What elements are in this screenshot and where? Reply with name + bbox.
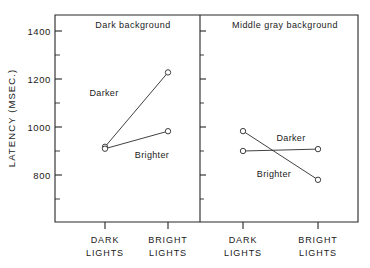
right-panel-series-darker bbox=[240, 146, 320, 153]
category-label-line2: LIGHTS bbox=[149, 248, 187, 258]
y-tick-label-1200: 1200 bbox=[27, 74, 51, 85]
data-point-marker bbox=[240, 128, 245, 133]
series-label-brighter-right: Brighter bbox=[257, 169, 291, 179]
category-label-line1: DARK bbox=[229, 235, 258, 245]
data-point-marker bbox=[102, 146, 107, 151]
figure-container: 1400 1200 1000 800 LATENCY (MSEC.) Dark … bbox=[0, 0, 370, 268]
panel-title-left: Dark background bbox=[95, 20, 170, 30]
x-axis-category-ticks bbox=[105, 222, 318, 229]
category-label-line1: DARK bbox=[91, 235, 120, 245]
y-axis-title: LATENCY (MSEC.) bbox=[6, 69, 17, 168]
plot-frame bbox=[55, 15, 358, 222]
latency-line-chart: 1400 1200 1000 800 LATENCY (MSEC.) Dark … bbox=[0, 0, 370, 268]
category-label-line1: BRIGHT bbox=[298, 235, 337, 245]
data-point-marker bbox=[240, 148, 245, 153]
category-label-right-bright: BRIGHT LIGHTS bbox=[298, 235, 337, 258]
left-panel-series-darker bbox=[102, 70, 170, 150]
category-label-line2: LIGHTS bbox=[86, 248, 124, 258]
category-label-line2: LIGHTS bbox=[224, 248, 262, 258]
series-label-darker-right: Darker bbox=[276, 133, 305, 143]
series-label-darker-left: Darker bbox=[89, 88, 118, 98]
y-tick-label-1400: 1400 bbox=[27, 26, 51, 37]
data-point-marker bbox=[315, 146, 320, 151]
y-tick-label-800: 800 bbox=[33, 170, 51, 181]
series-label-brighter-left: Brighter bbox=[135, 150, 169, 160]
panel-title-right: Middle gray background bbox=[232, 20, 338, 30]
left-panel-series-brighter bbox=[102, 129, 170, 152]
divider-axis-ticks bbox=[200, 31, 206, 199]
y-tick-label-1000: 1000 bbox=[27, 122, 51, 133]
category-label-left-bright: BRIGHT LIGHTS bbox=[148, 235, 187, 258]
category-label-line1: BRIGHT bbox=[148, 235, 187, 245]
category-label-line2: LIGHTS bbox=[299, 248, 337, 258]
data-point-marker bbox=[315, 177, 320, 182]
data-point-marker bbox=[165, 70, 170, 75]
category-label-right-dark: DARK LIGHTS bbox=[224, 235, 262, 258]
category-label-left-dark: DARK LIGHTS bbox=[86, 235, 124, 258]
data-point-marker bbox=[165, 129, 170, 134]
